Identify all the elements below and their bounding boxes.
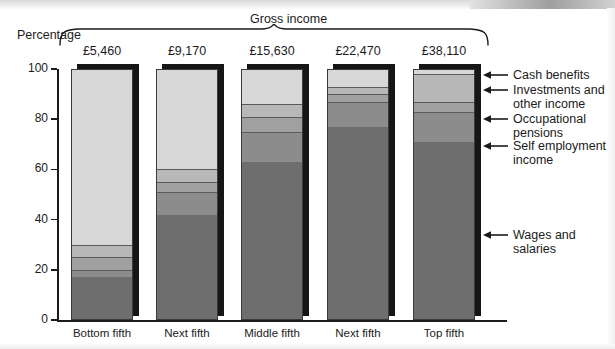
y-axis-tick xyxy=(51,219,57,221)
bar-segment xyxy=(71,245,133,258)
bar-segment xyxy=(241,132,303,162)
x-axis-label: Next fifth xyxy=(138,327,236,339)
bar-segment xyxy=(413,69,475,74)
legend-arrow-icon xyxy=(483,229,509,241)
y-axis-tick-label: 20 xyxy=(12,262,48,276)
bar-next-fifth-3 xyxy=(327,69,389,320)
bar-segment xyxy=(71,69,133,245)
bar-segment xyxy=(241,162,303,320)
legend-label-line: Self employment xyxy=(513,139,606,153)
y-axis-tick xyxy=(51,169,57,171)
bar-segment xyxy=(156,192,218,215)
bar-segment xyxy=(413,74,475,102)
x-axis-label: Top fifth xyxy=(395,327,493,339)
group-label-gross-income: £9,170 xyxy=(142,44,232,58)
bar-segment xyxy=(327,94,389,102)
scan-artifact-smudge xyxy=(470,0,615,9)
bar-segment xyxy=(241,69,303,104)
legend-arrow-icon xyxy=(483,84,509,96)
bar-segment xyxy=(413,112,475,142)
bar-segment xyxy=(71,257,133,270)
legend-label-line: Wages and xyxy=(513,228,576,242)
legend-arrow-icon xyxy=(483,113,509,125)
x-axis-label: Bottom fifth xyxy=(53,327,151,339)
legend-label-line: Occupational xyxy=(513,112,586,126)
scan-artifact-right xyxy=(607,8,615,349)
bar-segment xyxy=(156,215,218,320)
legend-label: Cash benefits xyxy=(513,68,589,82)
y-axis-tick-label: 80 xyxy=(12,111,48,125)
legend-label: Wages andsalaries xyxy=(513,228,576,256)
legend-label-line: Cash benefits xyxy=(513,68,589,82)
bar-segment xyxy=(156,182,218,192)
legend-label-line: Investments and xyxy=(513,83,605,97)
legend-arrow-icon xyxy=(483,140,509,152)
bar-segment xyxy=(241,104,303,117)
group-label-gross-income: £22,470 xyxy=(313,44,403,58)
group-label-gross-income: £5,460 xyxy=(57,44,147,58)
y-axis-tick-label: 40 xyxy=(12,212,48,226)
scan-artifact-bottom xyxy=(0,344,615,349)
bar-segment xyxy=(156,69,218,169)
bar-top-fifth-4 xyxy=(413,69,475,320)
y-axis-tick xyxy=(51,269,57,271)
gross-income-brace xyxy=(58,24,490,46)
bar-middle-fifth-2 xyxy=(241,69,303,320)
chart-figure: Gross income Percentage 020406080100 £5,… xyxy=(0,0,615,349)
bar-segment xyxy=(71,277,133,320)
x-axis-line xyxy=(57,320,507,322)
bar-segment xyxy=(413,102,475,112)
legend-label-line: pensions xyxy=(513,126,586,140)
bar-segment xyxy=(71,270,133,278)
x-axis-label: Middle fifth xyxy=(223,327,321,339)
scan-artifact-top xyxy=(0,0,615,9)
y-axis-tick-label: 60 xyxy=(12,161,48,175)
y-axis-tick-label: 100 xyxy=(12,61,48,75)
y-axis-tick xyxy=(51,118,57,120)
legend-label: Self employmentincome xyxy=(513,139,606,167)
y-axis-tick xyxy=(51,68,57,70)
y-axis-line xyxy=(57,69,59,321)
bar-segment xyxy=(327,87,389,95)
group-label-gross-income: £15,630 xyxy=(227,44,317,58)
y-axis-tick-label: 0 xyxy=(12,312,48,326)
x-axis-label: Next fifth xyxy=(309,327,407,339)
group-label-gross-income: £38,110 xyxy=(399,44,489,58)
legend-label-line: income xyxy=(513,153,606,167)
bar-segment xyxy=(327,69,389,87)
bar-next-fifth-1 xyxy=(156,69,218,320)
legend-arrow-icon xyxy=(483,69,509,81)
bar-segment xyxy=(327,127,389,320)
bar-segment xyxy=(241,117,303,132)
legend-label: Occupationalpensions xyxy=(513,112,586,140)
bar-segment xyxy=(156,169,218,182)
bar-bottom-fifth-0 xyxy=(71,69,133,320)
legend-label-line: other income xyxy=(513,97,605,111)
y-axis-tick xyxy=(51,319,57,321)
legend-label: Investments andother income xyxy=(513,83,605,111)
bar-segment xyxy=(327,102,389,127)
legend-label-line: salaries xyxy=(513,242,576,256)
bar-segment xyxy=(413,142,475,320)
